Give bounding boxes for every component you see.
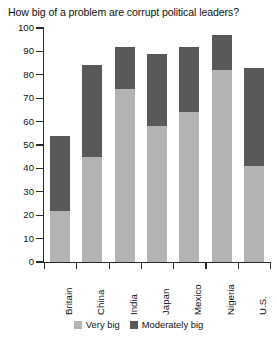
x-axis-label-britain: Britain [64,288,74,315]
y-axis-tick [36,144,43,145]
bar-segment-moderately-big[interactable] [50,136,70,211]
bar-group[interactable] [147,28,167,262]
bar-group[interactable] [115,28,135,262]
x-axis-label-japan: Japan [161,289,171,315]
x-axis-label-us: U.S. [258,296,268,315]
y-axis-tick [36,74,43,75]
bar-group[interactable] [82,28,102,262]
bar-segment-moderately-big[interactable] [115,47,135,89]
x-axis-tick [141,262,142,269]
y-axis-tick [36,98,43,99]
y-axis-tick-label: 100 [2,23,34,33]
legend-swatch-very-big [74,321,82,329]
bar-group[interactable] [179,28,199,262]
bar-group[interactable] [244,28,264,262]
bar-segment-very-big[interactable] [50,211,70,262]
y-axis-tick [36,238,43,239]
y-axis-tick [36,191,43,192]
y-axis-tick-label: 50 [2,140,34,150]
y-axis-tick [36,51,43,52]
bar-segment-very-big[interactable] [179,112,199,262]
x-axis-tick [205,262,206,269]
bar-segment-moderately-big[interactable] [82,65,102,156]
x-axis-label-mexico: Mexico [193,284,203,315]
chart-title: How big of a problem are corrupt politic… [8,6,273,18]
y-axis-tick-label: 60 [2,117,34,127]
y-axis-tick [36,27,43,28]
bar-group[interactable] [212,28,232,262]
y-axis-tick-label: 90 [2,46,34,56]
x-axis-label-india: India [129,294,139,315]
y-axis-tick-label: 0 [2,257,34,267]
bar-segment-moderately-big[interactable] [179,47,199,113]
x-axis-tick [238,262,239,269]
x-axis-label-nigeria: Nigeria [226,284,236,315]
plot-area [44,28,270,262]
bar-segment-moderately-big[interactable] [212,35,232,70]
x-axis-tick [109,262,110,269]
y-axis-tick-label: 30 [2,187,34,197]
y-axis-tick [36,121,43,122]
bar-segment-very-big[interactable] [212,70,232,262]
bar-segment-very-big[interactable] [244,166,264,262]
chart-legend: Very bigModerately big [0,320,277,329]
bar-segment-moderately-big[interactable] [244,68,264,166]
y-axis-tick-label: 80 [2,70,34,80]
x-axis-tick [44,262,45,269]
legend-label: Moderately big [142,320,204,329]
bar-segment-very-big[interactable] [82,157,102,262]
legend-swatch-moderately-big [130,321,138,329]
y-axis-tick-label: 20 [2,210,34,220]
y-axis-tick [36,168,43,169]
bar-segment-very-big[interactable] [147,126,167,262]
bar-segment-moderately-big[interactable] [147,54,167,127]
x-axis-label-china: China [96,290,106,315]
x-axis-tick [270,262,271,269]
y-axis-tick-label: 10 [2,234,34,244]
y-axis-tick-label: 40 [2,163,34,173]
legend-item[interactable]: Very big [74,320,120,329]
bar-segment-very-big[interactable] [115,89,135,262]
x-axis-tick [173,262,174,269]
y-axis-tick [36,261,43,262]
bar-group[interactable] [50,28,70,262]
y-axis-tick [36,215,43,216]
x-axis-tick [76,262,77,269]
chart-container: How big of a problem are corrupt politic… [0,0,277,340]
legend-item[interactable]: Moderately big [130,320,204,329]
legend-label: Very big [86,320,120,329]
y-axis-tick-label: 70 [2,93,34,103]
